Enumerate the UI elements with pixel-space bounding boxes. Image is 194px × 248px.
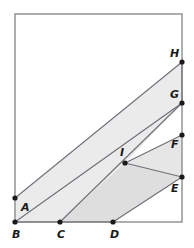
vertex-I (122, 160, 127, 165)
label-E: E (171, 182, 179, 195)
geometry-canvas: A B C D E F G H I (0, 0, 194, 248)
vertex-C (57, 219, 62, 224)
label-F: F (171, 138, 179, 151)
shaded-regions (15, 62, 182, 222)
vertex-B (12, 219, 17, 224)
label-C: C (57, 228, 65, 241)
vertex-H (179, 59, 184, 64)
label-A: A (20, 201, 30, 214)
vertex-A (12, 195, 17, 200)
label-H: H (170, 47, 179, 60)
label-B: B (12, 228, 20, 241)
label-I: I (120, 146, 124, 159)
label-D: D (110, 228, 119, 241)
geometry-figure: A B C D E F G H I (0, 0, 194, 248)
vertex-G (179, 100, 184, 105)
vertex-D (110, 219, 115, 224)
vertex-F (179, 132, 184, 137)
label-G: G (170, 88, 179, 101)
vertex-E (179, 174, 184, 179)
